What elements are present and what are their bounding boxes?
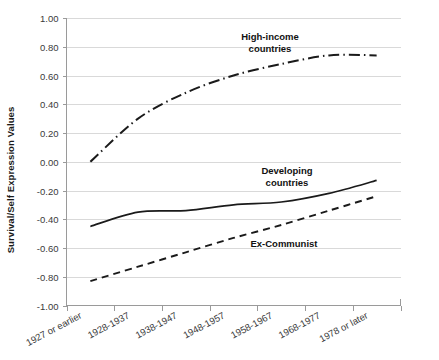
y-tick-label: 0.60 [40,71,59,82]
chart-container: 1.000.800.600.400.200.00-0.20-0.40-0.60-… [0,0,439,360]
y-tick-label: 1.00 [40,13,59,24]
y-tick-label: 0.00 [40,157,59,168]
y-tick-label: -0.60 [37,243,59,254]
series-label: countries [249,43,292,54]
series-label: Ex-Communist [250,238,318,249]
y-tick-label: 0.80 [40,42,59,53]
y-tick-label: -0.20 [37,186,59,197]
y-tick-label: -0.40 [37,214,59,225]
series-label: countries [266,177,309,188]
y-tick-label: -0.80 [37,272,59,283]
y-tick-label: -1.00 [37,301,59,312]
line-chart: 1.000.800.600.400.200.00-0.20-0.40-0.60-… [0,0,439,360]
y-axis-title: Survival/Self Expression Values [5,107,16,254]
y-tick-label: 0.40 [40,99,59,110]
series-label: Developing [261,165,312,176]
y-tick-label: 0.20 [40,128,59,139]
series-label: High-income [241,31,299,42]
